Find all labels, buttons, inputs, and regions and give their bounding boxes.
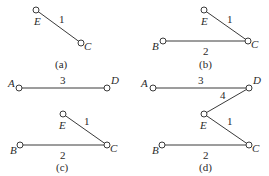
node-e-label: E <box>58 119 66 131</box>
node-e-label: E <box>199 119 207 131</box>
node-e <box>60 111 66 117</box>
node-b-label: B <box>152 144 159 156</box>
node-b <box>17 142 23 148</box>
panel-d: A D E C B 3 4 1 2 (d) <box>140 74 261 174</box>
node-d-label: D <box>252 74 261 86</box>
node-e <box>33 7 39 13</box>
edge-label-4: 4 <box>220 89 226 101</box>
node-d <box>104 85 110 91</box>
panel-b: E C B 1 2 (b) <box>152 7 259 71</box>
node-a <box>150 85 156 91</box>
edge-label-2: 2 <box>203 149 209 161</box>
node-a <box>16 85 22 91</box>
edge-label-2: 2 <box>203 45 209 57</box>
edge-label-3: 3 <box>60 74 66 86</box>
node-e-label: E <box>33 15 41 27</box>
node-b-label: B <box>152 40 159 52</box>
caption-a: (a) <box>55 58 68 71</box>
node-b <box>159 142 165 148</box>
caption-c: (c) <box>56 161 69 174</box>
node-c-label: C <box>252 142 260 154</box>
node-b-label: B <box>10 144 17 156</box>
edge-d-e <box>204 88 249 114</box>
edge-label-1: 1 <box>84 115 90 127</box>
edge-label-1: 1 <box>227 13 233 25</box>
node-d <box>246 85 252 91</box>
panel-c: A D E C B 3 1 2 (c) <box>7 74 119 174</box>
node-d-label: D <box>110 74 119 86</box>
panel-a: E C 1 (a) <box>33 7 92 71</box>
edge-label-2: 2 <box>60 149 66 161</box>
edge-label-3: 3 <box>198 74 204 86</box>
node-c-label: C <box>110 142 118 154</box>
caption-d: (d) <box>199 161 212 174</box>
node-e <box>201 111 207 117</box>
edge-e-c <box>204 10 248 41</box>
node-e <box>201 7 207 13</box>
node-c-label: C <box>251 38 259 50</box>
node-e-label: E <box>200 15 208 27</box>
spanning-tree-diagram: E C 1 (a) E C B 1 2 (b) A D E C B 3 1 2 … <box>0 0 269 176</box>
caption-b: (b) <box>199 58 212 71</box>
node-c-label: C <box>84 40 92 52</box>
edge-label-1: 1 <box>227 115 233 127</box>
node-a-label: A <box>140 77 148 89</box>
node-b <box>160 38 166 44</box>
node-a-label: A <box>7 77 15 89</box>
edge-label-1: 1 <box>59 13 65 25</box>
